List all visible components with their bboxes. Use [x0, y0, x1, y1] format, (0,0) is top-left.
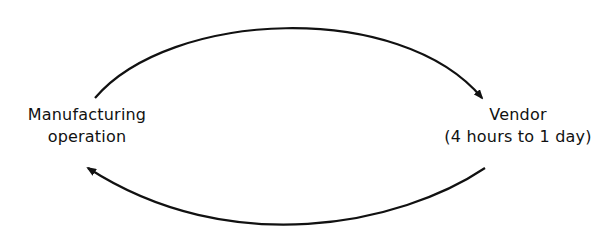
arrow-vendor-to-mfg: [88, 168, 485, 225]
node-label-line: Vendor: [440, 104, 596, 126]
node-label-line: Manufacturing: [2, 104, 172, 126]
node-label-line: (4 hours to 1 day): [440, 126, 596, 148]
node-vendor: Vendor (4 hours to 1 day): [440, 104, 596, 148]
node-manufacturing-operation: Manufacturing operation: [2, 104, 172, 148]
node-label-line: operation: [2, 126, 172, 148]
arrow-mfg-to-vendor: [95, 28, 482, 98]
